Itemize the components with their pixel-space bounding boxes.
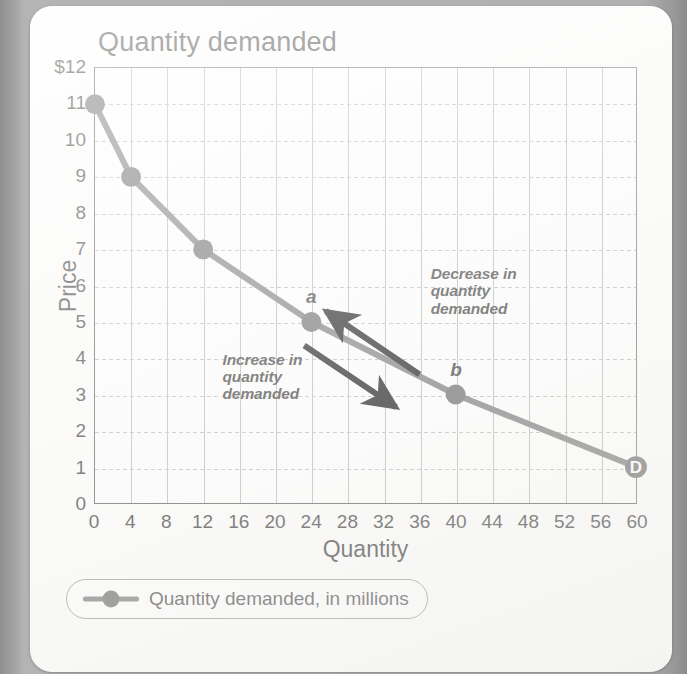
data-point-marker: [446, 385, 466, 405]
annotation-decrease-line1: Decrease in: [431, 265, 517, 282]
point-label-b: b: [450, 359, 462, 381]
annotation-increase: Increase in quantity demanded: [223, 351, 303, 403]
y-tick-label: 3: [75, 384, 86, 406]
x-tick-label: 16: [228, 511, 249, 533]
annotation-increase-line2: quantity: [223, 368, 303, 385]
data-point-marker: [301, 312, 321, 332]
x-tick-label: 20: [264, 511, 285, 533]
x-axis-title: Quantity: [323, 536, 409, 563]
x-tick-label: 8: [161, 511, 172, 533]
y-tick-label: 8: [75, 202, 86, 224]
series-line: [95, 104, 636, 467]
x-tick-label: 44: [482, 511, 503, 533]
x-tick-label: 24: [301, 511, 322, 533]
data-point-marker: [193, 239, 213, 259]
x-tick-label: 52: [554, 511, 575, 533]
annotation-increase-line3: demanded: [223, 385, 303, 402]
x-tick-label: 32: [373, 511, 394, 533]
y-tick-label: 5: [75, 311, 86, 333]
x-tick-label: 28: [337, 511, 358, 533]
y-tick-label: 10: [65, 129, 86, 151]
y-axis-title: Price: [55, 259, 82, 311]
data-point-marker: [121, 167, 141, 187]
y-tick-label: $12: [54, 56, 86, 78]
legend-label: Quantity demanded, in millions: [149, 588, 409, 610]
y-tick-label: 11: [66, 92, 86, 114]
y-tick-label: 2: [75, 420, 86, 442]
x-tick-label: 12: [192, 511, 213, 533]
x-tick-label: 48: [518, 511, 539, 533]
chart-title: Quantity demanded: [98, 27, 337, 58]
plot-area-wrapper: D 01234567891011$12 04812162024283236404…: [94, 67, 637, 504]
curve-label-D: D: [630, 458, 642, 477]
x-tick-label: 60: [626, 511, 647, 533]
x-tick-label: 56: [590, 511, 611, 533]
annotation-decrease: Decrease in quantity demanded: [431, 265, 517, 317]
annotation-arrow: [326, 311, 420, 374]
demand-curve: [95, 104, 636, 467]
data-point-markers: D: [85, 94, 647, 478]
y-tick-label: 9: [75, 165, 86, 187]
chart-legend: Quantity demanded, in millions: [66, 579, 428, 619]
annotation-decrease-line3: demanded: [431, 300, 517, 317]
point-label-a: a: [306, 286, 317, 308]
y-tick-label: 7: [75, 238, 86, 260]
line-with-dot-icon: [83, 590, 139, 608]
plot-area: D: [94, 67, 637, 504]
y-tick-label: 4: [75, 347, 86, 369]
y-tick-label: 1: [75, 457, 86, 479]
x-tick-label: 0: [89, 511, 100, 533]
series-canvas: D: [95, 68, 636, 503]
annotation-increase-line1: Increase in: [223, 351, 303, 368]
x-tick-label: 40: [445, 511, 466, 533]
y-tick-label: 0: [75, 493, 86, 515]
chart-card: Quantity demanded D 01234567891011$12 04…: [30, 6, 672, 672]
data-point-marker: [85, 94, 105, 114]
annotation-decrease-line2: quantity: [431, 282, 517, 299]
x-tick-label: 36: [409, 511, 430, 533]
x-tick-label: 4: [125, 511, 136, 533]
